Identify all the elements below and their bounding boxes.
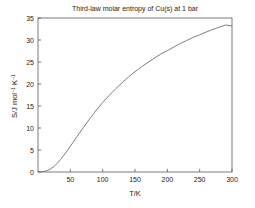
x-tick-label: 250	[194, 176, 206, 183]
y-tick-label: 10	[26, 125, 34, 132]
y-axis-label: S/J mol−1 K−1	[10, 74, 19, 118]
y-tick-label: 5	[30, 147, 34, 154]
x-axis-label: T/K	[129, 189, 141, 198]
svg-text:S/J mol−1 K−1: S/J mol−1 K−1	[10, 74, 19, 118]
x-tick-label: 50	[66, 176, 74, 183]
chart-title: Third-law molar entropy of Cu(s) at 1 ba…	[72, 5, 199, 13]
y-axis-label-sup2: −1	[10, 74, 16, 80]
y-tick-label: 0	[30, 169, 34, 176]
x-tick-label: 100	[97, 176, 109, 183]
y-axis-label-base2: K	[10, 80, 19, 87]
y-tick-label: 30	[26, 37, 34, 44]
x-tick-label: 200	[161, 176, 173, 183]
y-tick-label: 20	[26, 81, 34, 88]
x-tick-label: 150	[129, 176, 141, 183]
entropy-line-chart: Third-law molar entropy of Cu(s) at 1 ba…	[0, 0, 255, 208]
y-tick-label: 15	[26, 103, 34, 110]
x-tick-label: 300	[226, 176, 238, 183]
y-axis-label-base1: S/J mol	[10, 93, 19, 118]
y-tick-label: 25	[26, 59, 34, 66]
y-tick-label: 35	[26, 15, 34, 22]
chart-figure: Third-law molar entropy of Cu(s) at 1 ba…	[0, 0, 255, 208]
